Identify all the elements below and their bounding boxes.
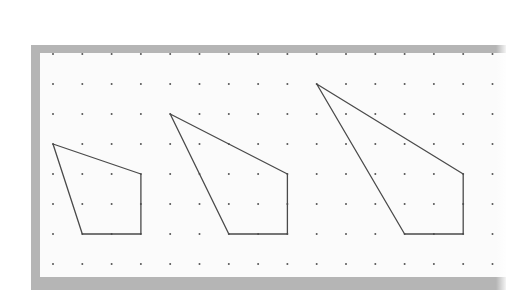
grid-dot [140,83,142,85]
grid-dot [316,53,318,55]
grid-dot [462,143,464,145]
grid-dot [52,203,54,205]
grid-dot [111,143,113,145]
grid-dot [286,53,288,55]
grid-dot [81,83,83,85]
grid-dot [345,143,347,145]
grid-dot [492,53,494,55]
grid-dot [111,203,113,205]
grid-dot [404,53,406,55]
grid-dot [169,263,171,265]
grid-dot [374,53,376,55]
grid-dot [199,143,201,145]
grid-dot [81,53,83,55]
grid-dot [286,263,288,265]
grid-dot [345,263,347,265]
quadrilateral-large [317,84,464,234]
grid-dot [111,173,113,175]
grid-dot [316,173,318,175]
grid-dot [462,113,464,115]
grid-dot [140,143,142,145]
grid-dot [81,113,83,115]
grid-dot [404,173,406,175]
grid-dot [81,143,83,145]
grid-dot [374,113,376,115]
grid-dot [316,143,318,145]
dot-grid-diagram [0,0,506,303]
grid-dot [433,83,435,85]
grid-dot [316,233,318,235]
grid-dot [404,113,406,115]
grid-dot [345,173,347,175]
grid-dot [140,263,142,265]
grid-dot [433,143,435,145]
grid-dot [404,83,406,85]
grid-dot [228,203,230,205]
grid-dot [257,263,259,265]
grid-dot [257,203,259,205]
grid-dot [228,173,230,175]
grid-dot [492,83,494,85]
grid-dot [169,173,171,175]
grid-dot [111,113,113,115]
grid-dot [492,263,494,265]
grid-dot [169,203,171,205]
grid-dot [374,263,376,265]
grid-dot [257,113,259,115]
quadrilateral-shapes [53,84,463,234]
grid-dot [257,173,259,175]
grid-dot [345,233,347,235]
grid-dot [228,263,230,265]
grid-dot [52,173,54,175]
grid-dot [169,83,171,85]
grid-dot [111,83,113,85]
grid-dot [462,83,464,85]
grid-dot [433,263,435,265]
grid-dot [345,83,347,85]
grid-dot [374,233,376,235]
grid-dot [404,263,406,265]
right-edge-fade [496,40,506,295]
grid-dot [257,53,259,55]
quadrilateral-small [53,144,141,234]
grid-dot [199,53,201,55]
grid-dot [286,113,288,115]
grid-dot [228,113,230,115]
grid-dot [345,53,347,55]
grid-dot [492,203,494,205]
grid-dot [199,203,201,205]
grid-dot [111,53,113,55]
grid-dot [316,263,318,265]
grid-dot [316,113,318,115]
grid-dot [81,263,83,265]
grid-dot [81,173,83,175]
grid-dot [345,113,347,115]
grid-dot [52,263,54,265]
grid-dot [81,203,83,205]
grid-dot [169,143,171,145]
grid-dot [169,53,171,55]
grid-dot [492,113,494,115]
grid-dot [433,113,435,115]
grid-dot [374,143,376,145]
grid-dot [199,83,201,85]
grid-dot [140,53,142,55]
grid-dot [111,263,113,265]
grid-dot [433,203,435,205]
grid-dot [345,203,347,205]
grid-dot [374,203,376,205]
grid-dot [199,263,201,265]
grid-dot [374,173,376,175]
grid-dot [404,203,406,205]
grid-dots [52,53,494,265]
grid-dot [404,143,406,145]
grid-dot [199,113,201,115]
grid-dot [462,263,464,265]
grid-dot [316,203,318,205]
grid-dot [492,143,494,145]
grid-dot [52,53,54,55]
grid-dot [374,83,376,85]
grid-dot [52,83,54,85]
grid-dot [169,233,171,235]
grid-dot [492,173,494,175]
